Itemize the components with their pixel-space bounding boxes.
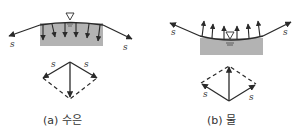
tension-label-right: s xyxy=(283,27,288,37)
caption-a: (a) 수은 xyxy=(43,111,82,127)
tension-label-right: s xyxy=(123,42,128,52)
vector-label-right: s xyxy=(84,59,89,69)
tension-arrow-right xyxy=(103,25,132,39)
vector-label-left: s xyxy=(51,59,56,69)
tension-arrow-left xyxy=(9,25,40,36)
vector-diagram-b: s s xyxy=(201,66,256,102)
tension-label-left: s xyxy=(10,39,15,49)
free-surface-triangle-icon xyxy=(66,13,74,20)
vector-label-left: s xyxy=(203,89,208,99)
panel-b-water: s s s s xyxy=(170,21,291,102)
tension-label-left: s xyxy=(171,27,176,37)
vector-diagram-a: s s xyxy=(43,59,97,99)
free-surface-triangle-icon xyxy=(226,32,234,39)
mercury-fluid-region xyxy=(40,23,103,46)
panel-a-mercury: s s s s xyxy=(9,13,132,99)
caption-b: (b) 물 xyxy=(207,111,236,127)
vector-label-right: s xyxy=(249,92,254,102)
